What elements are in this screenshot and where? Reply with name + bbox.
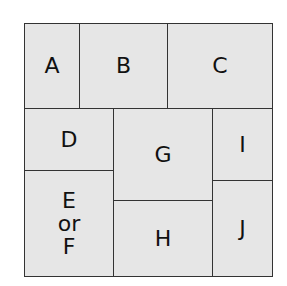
cell-b: B bbox=[79, 23, 168, 109]
cell-h: H bbox=[113, 200, 213, 277]
cell-a-label: A bbox=[44, 54, 59, 77]
cell-c: C bbox=[167, 23, 273, 109]
cell-i: I bbox=[212, 108, 273, 181]
cell-i-label: I bbox=[239, 133, 246, 156]
cell-d: D bbox=[24, 108, 114, 171]
cell-h-label: H bbox=[155, 227, 172, 250]
cell-j: J bbox=[212, 180, 273, 277]
cell-b-label: B bbox=[116, 54, 131, 77]
cell-g-label: G bbox=[154, 143, 171, 166]
cell-c-label: C bbox=[212, 54, 227, 77]
cell-d-label: D bbox=[61, 128, 78, 151]
cell-e-or-f-label: E or F bbox=[58, 189, 81, 258]
cell-j-label: J bbox=[239, 217, 246, 240]
cell-g: G bbox=[113, 108, 213, 201]
cell-e-or-f: E or F bbox=[24, 170, 114, 277]
cell-a: A bbox=[24, 23, 80, 109]
partition-diagram: A B C D G I E or F H J bbox=[0, 0, 287, 286]
